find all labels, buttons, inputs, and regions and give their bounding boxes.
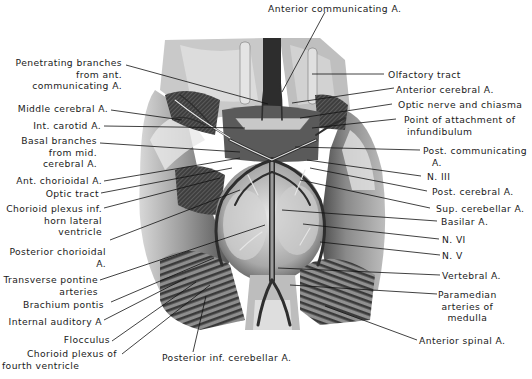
label-trigeminal-nerve: N. V <box>442 250 463 262</box>
label-line: infundibulum <box>404 126 515 138</box>
label-line: cerebral A. <box>21 158 97 170</box>
label-vertebral-artery: Vertebral A. <box>442 270 501 282</box>
label-line: A. <box>423 157 527 169</box>
label-flocculus: Flocculus <box>64 334 110 346</box>
label-line: arteries of <box>438 301 497 313</box>
label-line: Chorioid plexus inf. <box>6 203 102 215</box>
label-paramedian-arteries-medulla: Paramedian arteries of medulla <box>438 289 497 324</box>
label-abducens-nerve: N. VI <box>442 234 466 246</box>
label-superior-cerebellar-artery: Sup. cerebellar A. <box>436 203 524 215</box>
label-transverse-pontine-arteries: Transverse pontine arteries <box>3 274 98 297</box>
label-posterior-cerebral-artery: Post. cerebral A. <box>432 186 514 198</box>
label-penetrating-branches: Penetrating branches from ant. communica… <box>16 57 122 92</box>
label-line: Basal branches <box>21 135 97 147</box>
label-line: Penetrating branches <box>16 57 122 69</box>
brain-base-arteries-figure: Anterior communicating A. Penetrating br… <box>0 0 532 379</box>
label-line: Posterior chorioidal <box>9 246 106 258</box>
label-line: Post. communicating <box>423 145 527 157</box>
label-posterior-communicating-artery: Post. communicating A. <box>423 145 527 168</box>
label-oculomotor-nerve: N. III <box>427 171 450 183</box>
label-basilar-artery: Basilar A. <box>441 216 488 228</box>
label-line: fourth ventricle <box>2 360 117 372</box>
label-optic-nerve-chiasma: Optic nerve and chiasma <box>398 99 522 111</box>
label-line: ventricle <box>6 226 102 238</box>
label-chorioid-plexus-inferior-horn: Chorioid plexus inf. horn lateral ventri… <box>6 203 102 238</box>
label-internal-carotid-artery: Int. carotid A. <box>33 120 101 132</box>
label-line: Chorioid plexus of <box>27 348 117 360</box>
label-line: Point of attachment of <box>404 114 515 126</box>
label-line: Paramedian <box>438 289 497 301</box>
label-line: horn lateral <box>6 215 102 227</box>
label-infundibulum-attachment: Point of attachment of infundibulum <box>404 114 515 137</box>
label-anterior-communicating-artery: Anterior communicating A. <box>268 3 401 15</box>
label-basal-branches: Basal branches from mid. cerebral A. <box>21 135 97 170</box>
label-line: arteries <box>3 286 98 298</box>
label-internal-auditory-artery: Internal auditory A <box>9 316 102 328</box>
label-brachium-pontis: Brachium pontis <box>23 299 104 311</box>
label-line: from ant. <box>16 69 122 81</box>
label-middle-cerebral-artery: Middle cerebral A. <box>18 103 108 115</box>
label-anterior-cerebral-artery: Anterior cerebral A. <box>396 84 494 96</box>
label-posterior-chorioidal-artery: Posterior chorioidal A. <box>9 246 106 269</box>
label-optic-tract: Optic tract <box>46 188 99 200</box>
label-posterior-inferior-cerebellar-artery: Posterior inf. cerebellar A. <box>162 352 291 364</box>
label-line: Transverse pontine <box>3 274 98 286</box>
label-line: A. <box>9 258 106 270</box>
label-line: communicating A. <box>16 80 122 92</box>
label-anterior-chorioidal-artery: Ant. chorioidal A. <box>16 175 102 187</box>
label-anterior-spinal-artery: Anterior spinal A. <box>419 335 505 347</box>
label-line: medulla <box>438 312 497 324</box>
label-line: from mid. <box>21 147 97 159</box>
label-chorioid-plexus-fourth-ventricle: Chorioid plexus of fourth ventricle <box>27 348 117 371</box>
label-olfactory-tract: Olfactory tract <box>388 69 461 81</box>
